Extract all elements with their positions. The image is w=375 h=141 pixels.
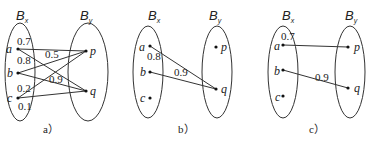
caption-a: a） <box>43 123 59 135</box>
set-by-ellipse <box>202 26 232 118</box>
node-a-label: a <box>139 40 145 54</box>
node-q-label: q <box>90 84 96 98</box>
node-p-dot <box>84 49 87 52</box>
weight-b-q: 0.9 <box>174 66 188 78</box>
weight-b-q: 0.9 <box>315 71 329 83</box>
set-by-label: By <box>80 8 93 25</box>
node-a-label: a <box>274 39 280 53</box>
node-q-label: q <box>221 82 227 96</box>
node-b-label: b <box>7 66 13 80</box>
node-c-dot <box>281 94 284 97</box>
node-a-dot <box>16 47 19 50</box>
set-bx-label: Bx <box>16 8 29 24</box>
weight-a-p: 0.7 <box>281 30 295 42</box>
weight-c-p: 0.2 <box>17 82 31 94</box>
set-bx-label: Bx <box>282 8 295 24</box>
panel-b: Bx By a b c p q 0.8 0.9 b） <box>133 8 232 135</box>
set-by-label: By <box>209 8 222 25</box>
set-bx-label: Bx <box>148 8 161 24</box>
node-q-dot <box>84 89 87 92</box>
node-c-label: c <box>140 91 146 105</box>
node-b-label: b <box>140 65 146 79</box>
node-b-dot <box>281 68 284 71</box>
node-q-dot <box>346 86 349 89</box>
weight-b-q: 0.9 <box>49 73 63 85</box>
node-p-dot <box>346 45 349 48</box>
node-c-label: c <box>7 91 13 105</box>
node-p-label: p <box>353 40 360 54</box>
node-p-label: p <box>220 40 227 54</box>
panel-a: Bx By a b c p q 0.7 0.8 0.5 0.9 0.2 0.1 … <box>5 8 108 135</box>
bipartite-diagram-figure: Bx By a b c p q 0.7 0.8 0.5 0.9 0.2 0.1 … <box>0 0 375 141</box>
set-by-label: By <box>345 8 358 25</box>
weight-b-p: 0.5 <box>45 48 59 60</box>
caption-c: c） <box>309 123 325 135</box>
node-a-label: a <box>6 42 12 56</box>
weight-a-q: 0.8 <box>147 50 161 62</box>
set-by-ellipse <box>335 26 365 118</box>
set-bx-ellipse <box>133 26 163 118</box>
node-p-dot <box>214 45 217 48</box>
node-a-dot <box>281 43 284 46</box>
node-p-label: p <box>89 44 96 58</box>
weight-a-q: 0.8 <box>17 54 31 66</box>
node-b-dot <box>16 71 19 74</box>
caption-b: b） <box>178 123 195 135</box>
node-b-dot <box>148 70 151 73</box>
node-b-label: b <box>274 64 280 78</box>
node-q-dot <box>214 87 217 90</box>
node-c-label: c <box>275 90 281 104</box>
node-a-dot <box>148 44 151 47</box>
weight-c-q: 0.1 <box>18 100 32 112</box>
set-by-ellipse <box>68 23 108 121</box>
node-c-dot <box>148 96 151 99</box>
node-q-label: q <box>354 81 360 95</box>
weight-a-p: 0.7 <box>17 35 31 47</box>
panel-c: Bx By a b c p q 0.7 0.9 c） <box>268 8 365 135</box>
